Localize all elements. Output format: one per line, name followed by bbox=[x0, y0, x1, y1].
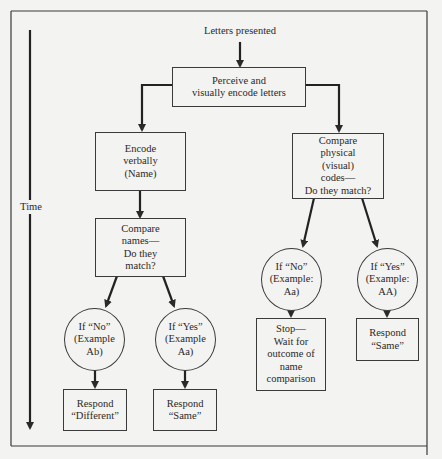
encode-verbally-box: Encode verbally (Name) bbox=[95, 132, 186, 191]
physical-yes-decision: If “Yes” (Example: AA) bbox=[357, 248, 418, 311]
letters-presented-label: Letters presented bbox=[190, 24, 290, 38]
respond-same-physical-box: Respond “Same” bbox=[356, 318, 419, 361]
time-label: Time bbox=[16, 200, 46, 214]
perceive-encode-box: Perceive and visually encode letters bbox=[172, 67, 306, 107]
respond-different-box: Respond “Different” bbox=[63, 389, 127, 431]
compare-physical-box: Compare physical (visual) codes— Do they… bbox=[292, 133, 384, 199]
stop-wait-box: Stop— Wait for outcome of name compariso… bbox=[256, 318, 326, 391]
names-yes-decision: If “Yes” (Example Aa) bbox=[155, 308, 216, 371]
compare-names-box: Compare names— Do they match? bbox=[95, 218, 186, 277]
respond-same-names-box: Respond “Same” bbox=[153, 389, 217, 431]
physical-no-decision: If “No” (Example: Aa) bbox=[261, 248, 322, 311]
names-no-decision: If “No” (Example Ab) bbox=[64, 308, 125, 371]
